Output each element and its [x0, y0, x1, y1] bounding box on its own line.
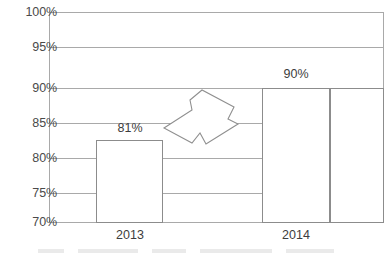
y-tick-label-70: 70%	[11, 215, 57, 229]
y-tick-label-100: 100%	[11, 5, 57, 19]
bar-2013[interactable]	[96, 140, 163, 223]
bar-partial-right[interactable]	[330, 88, 384, 223]
x-category-label-2014: 2014	[282, 228, 310, 242]
gridline-95	[49, 47, 384, 48]
bar-value-label-2014: 90%	[283, 67, 308, 81]
gridline-100	[49, 12, 384, 13]
y-tick-label-90: 90%	[11, 81, 57, 95]
x-category-label-2013: 2013	[116, 228, 144, 242]
bottom-edge-artifact	[0, 249, 388, 255]
bar-2014[interactable]	[262, 88, 330, 223]
growth-arrow-icon	[162, 88, 242, 150]
bar-value-label-2013: 81%	[117, 121, 142, 135]
y-tick-label-95: 95%	[11, 40, 57, 54]
y-tick-label-80: 80%	[11, 151, 57, 165]
y-tick-label-85: 85%	[11, 116, 57, 130]
y-tick-label-75: 75%	[11, 186, 57, 200]
bar-chart: 100% 95% 90% 85% 80% 75% 70% 81% 90% 201…	[0, 0, 388, 255]
